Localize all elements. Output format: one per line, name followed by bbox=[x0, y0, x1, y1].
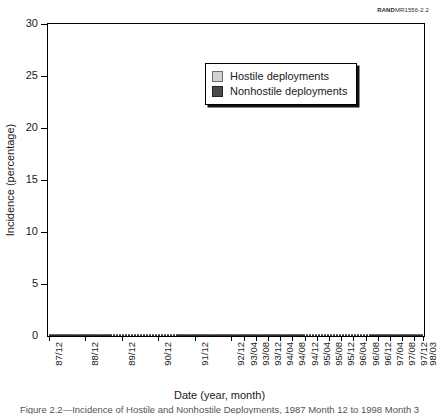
x-axis-tick-mark bbox=[292, 337, 293, 341]
x-axis-tick-label: 92/12 bbox=[235, 342, 246, 366]
x-axis-tick-label: 93/08 bbox=[260, 342, 271, 366]
y-axis-tick-label: 0 bbox=[32, 330, 38, 341]
x-axis-tick-label: 90/12 bbox=[162, 342, 173, 366]
x-axis-tick-mark bbox=[423, 337, 424, 341]
x-axis-tick-mark bbox=[366, 337, 367, 341]
x-axis-tick-mark bbox=[244, 337, 245, 341]
y-axis-tick-label: 25 bbox=[26, 70, 38, 81]
x-axis-tick-label: 94/08 bbox=[296, 342, 307, 366]
x-axis-tick-mark bbox=[158, 337, 159, 341]
x-axis-tick-label: 98/03 bbox=[427, 342, 438, 366]
x-axis-ticks bbox=[47, 337, 425, 341]
rand-code-brand: RAND bbox=[377, 7, 395, 13]
legend-swatch-icon bbox=[212, 86, 223, 97]
x-axis-tick-mark bbox=[378, 337, 379, 341]
x-axis-tick-mark bbox=[49, 337, 50, 341]
y-axis-tick-mark bbox=[41, 284, 48, 285]
y-axis-tick-mark bbox=[41, 76, 48, 77]
x-axis-tick-label: 96/12 bbox=[382, 342, 393, 366]
x-axis-tick-label: 94/04 bbox=[284, 342, 295, 366]
rand-code-number: MR1556-2.2 bbox=[395, 7, 429, 13]
x-axis-tick-labels: 87/1288/1289/1290/1291/1292/1293/0493/08… bbox=[47, 342, 425, 384]
x-axis-tick-label: 87/12 bbox=[53, 342, 64, 366]
bar-column[interactable] bbox=[420, 334, 423, 336]
x-axis-tick-mark bbox=[353, 337, 354, 341]
x-axis-tick-label: 94/12 bbox=[309, 342, 320, 366]
x-axis-tick-mark bbox=[317, 337, 318, 341]
figure-container: RANDMR1556-2.2 Incidence (percentage) 05… bbox=[0, 0, 439, 414]
legend-label: Hostile deployments bbox=[230, 71, 329, 82]
rand-report-code: RANDMR1556-2.2 bbox=[377, 7, 429, 13]
y-axis-tick-label: 10 bbox=[26, 226, 38, 237]
y-axis-tick-mark bbox=[41, 128, 48, 129]
x-axis-title: Date (year, month) bbox=[0, 389, 439, 401]
x-axis-tick-label: 96/08 bbox=[370, 342, 381, 366]
x-axis-tick-label: 96/04 bbox=[357, 342, 368, 366]
x-axis-tick-mark bbox=[329, 337, 330, 341]
figure-caption: Figure 2.2—Incidence of Hostile and Nonh… bbox=[0, 404, 439, 414]
x-axis-tick-mark bbox=[390, 337, 391, 341]
y-axis-tick-label: 30 bbox=[26, 18, 38, 29]
x-axis-tick-mark bbox=[402, 337, 403, 341]
y-axis-tick-label: 20 bbox=[26, 122, 38, 133]
x-axis-tick-mark bbox=[341, 337, 342, 341]
x-axis-tick-mark bbox=[305, 337, 306, 341]
figure-caption-text: Figure 2.2—Incidence of Hostile and Nonh… bbox=[0, 404, 439, 414]
y-axis-tick-mark bbox=[41, 24, 48, 25]
x-axis-tick-mark bbox=[414, 337, 415, 341]
x-axis-tick-label: 95/08 bbox=[333, 342, 344, 366]
x-axis-tick-label: 89/12 bbox=[126, 342, 137, 366]
x-axis-tick-mark bbox=[195, 337, 196, 341]
x-axis-tick-label: 91/12 bbox=[199, 342, 210, 366]
y-axis-tick-mark bbox=[41, 232, 48, 233]
x-axis-tick-mark bbox=[256, 337, 257, 341]
x-axis-tick-mark bbox=[122, 337, 123, 341]
x-axis-tick-label: 95/04 bbox=[321, 342, 332, 366]
bar-segment-nonhostile bbox=[420, 335, 423, 336]
x-axis-tick-label: 93/12 bbox=[272, 342, 283, 366]
x-axis-tick-mark bbox=[231, 337, 232, 341]
y-axis-title: Incidence (percentage) bbox=[4, 124, 16, 237]
x-axis-tick-mark bbox=[85, 337, 86, 341]
legend-item[interactable]: Nonhostile deployments bbox=[212, 84, 347, 99]
y-axis-tick-mark bbox=[41, 180, 48, 181]
chart-legend: Hostile deploymentsNonhostile deployment… bbox=[205, 63, 357, 105]
x-axis-tick-mark bbox=[280, 337, 281, 341]
y-axis-tick-label: 15 bbox=[26, 174, 38, 185]
x-axis-tick-label: 95/12 bbox=[345, 342, 356, 366]
legend-item[interactable]: Hostile deployments bbox=[212, 69, 347, 84]
x-axis-tick-label: 88/12 bbox=[89, 342, 100, 366]
y-axis-tick-label: 5 bbox=[32, 278, 38, 289]
x-axis-tick-label: 97/04 bbox=[394, 342, 405, 366]
x-axis-tick-mark bbox=[268, 337, 269, 341]
x-axis-tick-label: 97/08 bbox=[406, 342, 417, 366]
legend-label: Nonhostile deployments bbox=[230, 86, 347, 97]
legend-swatch-icon bbox=[212, 71, 223, 82]
x-axis-tick-label: 93/04 bbox=[248, 342, 259, 366]
